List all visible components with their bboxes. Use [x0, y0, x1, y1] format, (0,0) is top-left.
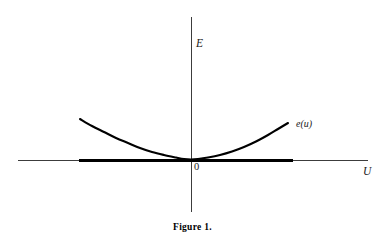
curve-label: e(u) [296, 119, 312, 129]
figure-caption: Figure 1. [0, 222, 385, 232]
curve-e-of-u [80, 119, 288, 160]
origin-label: 0 [194, 162, 199, 173]
figure-container: E U 0 e(u) Figure 1. [0, 0, 385, 239]
y-axis-label: E [196, 38, 203, 50]
plot-canvas [0, 0, 385, 239]
x-axis-label: U [363, 166, 371, 178]
